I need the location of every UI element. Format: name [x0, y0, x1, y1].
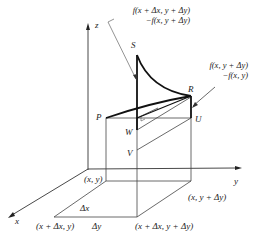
top-annotation-arrowhead	[133, 74, 137, 81]
y-axis-arrowhead	[235, 166, 242, 170]
z-axis-label: z	[95, 20, 99, 30]
corner-x-dx-y-label: (x + Δx, y)	[36, 221, 74, 231]
base-rectangle	[54, 181, 191, 217]
vertical-edges	[106, 118, 191, 217]
x-axis	[12, 169, 88, 215]
point-V-label: V	[127, 148, 133, 158]
surface-edges	[106, 55, 191, 130]
point-W-label: W	[125, 127, 133, 137]
corner-xy-label: (x, y)	[84, 174, 102, 184]
x-axis-label: x	[15, 216, 19, 226]
right-annotation-line2: −f(x, y)	[196, 70, 248, 80]
corner-x-dx-y-dy-label: (x + Δx, y + Δy)	[135, 221, 193, 231]
delta-x-label: Δx	[80, 203, 89, 213]
y-axis	[88, 168, 236, 169]
x-axis-arrowhead	[8, 212, 15, 218]
point-S-label: S	[131, 40, 136, 50]
point-P-label: P	[96, 112, 102, 122]
delta-y-label: Δy	[92, 221, 101, 231]
corner-x-y-dy-label: (x, y + Δy)	[188, 192, 226, 202]
point-U-label: U	[195, 114, 202, 124]
point-R-label: R	[188, 84, 194, 94]
top-annotation-tick	[108, 19, 114, 22]
top-annotation: f(x + Δx, y + Δy) −f(x, y + Δy)	[118, 5, 190, 25]
right-annotation-leader	[193, 87, 215, 106]
right-annotation-line1: f(x, y + Δy)	[196, 60, 248, 70]
top-annotation-line1: f(x + Δx, y + Δy)	[118, 5, 190, 15]
diagram-figure: z y x S R P W U V f(x + Δx, y + Δy) −f(x…	[0, 0, 253, 238]
right-annotation: f(x, y + Δy) −f(x, y)	[196, 60, 248, 80]
top-annotation-line2: −f(x, y + Δy)	[118, 15, 190, 25]
y-axis-label: y	[234, 176, 238, 186]
z-axis-arrowhead	[86, 23, 90, 30]
diagram-svg	[0, 0, 253, 238]
top-annotation-leader	[108, 22, 136, 79]
